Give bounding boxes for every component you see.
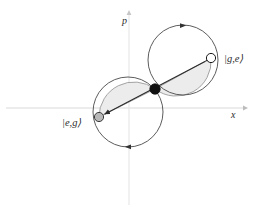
x-axis-arrowhead xyxy=(243,105,248,110)
phase-space-figure: |g,e⟩ |e,g⟩ p x xyxy=(0,0,264,210)
origin-state-dot xyxy=(150,84,160,94)
lower-shaded-lobe xyxy=(99,82,155,117)
state-eg-label: |e,g⟩ xyxy=(62,117,81,128)
upper-shaded-lobe xyxy=(155,58,211,96)
state-ge-marker xyxy=(206,53,215,62)
state-ge-label: |g,e⟩ xyxy=(224,53,243,64)
lower-circle-direction-arrow xyxy=(125,144,131,149)
state-eg-marker xyxy=(94,112,103,121)
p-axis-label: p xyxy=(121,15,127,26)
upper-circle-direction-arrow xyxy=(180,23,186,28)
p-axis-arrowhead xyxy=(127,10,132,15)
x-axis-label: x xyxy=(230,109,236,120)
figure-canvas: |g,e⟩ |e,g⟩ p x xyxy=(0,0,264,210)
